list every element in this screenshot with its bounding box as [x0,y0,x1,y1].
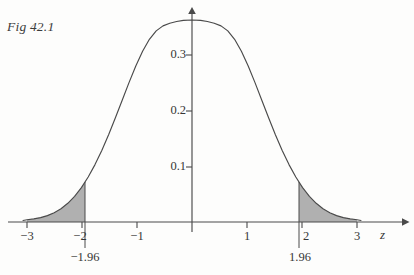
y-tick-label-0-1: 0.1 [158,159,186,174]
x-tick-label-minus-2: −2 [66,229,94,244]
x-tick-label-3: 3 [346,229,368,244]
y-tick-label-0-3: 0.3 [158,47,186,62]
critical-value-label-left: −1.96 [55,250,115,265]
y-tick-label-0-2: 0.2 [158,103,186,118]
x-tick-label-1: 1 [236,229,258,244]
x-tick-label-minus-3: −3 [13,229,41,244]
x-tick-label-minus-1: −1 [123,229,151,244]
critical-value-label-right: 1.96 [272,250,328,265]
y-axis-ticks [186,55,192,167]
left-tail-shaded-region [27,182,85,222]
x-axis-arrowhead [402,218,410,226]
y-axis [186,7,196,232]
x-tick-label-2: 2 [295,229,317,244]
right-tail-shaded-region [299,182,357,222]
x-axis-variable-label: z [380,227,385,243]
figure-container: Fig 42.1 [0,0,414,275]
y-axis-arrowhead [188,7,196,14]
